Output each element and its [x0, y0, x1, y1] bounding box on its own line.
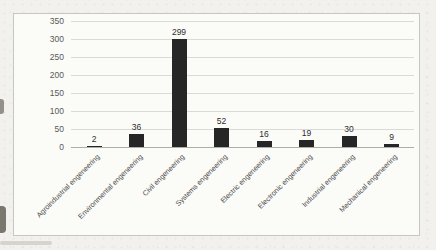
y-tick-label: 0	[30, 142, 64, 152]
x-axis-line	[71, 147, 414, 148]
bar-6	[342, 136, 357, 147]
bar-3	[214, 128, 229, 147]
bar-4	[257, 141, 272, 147]
y-tick-label: 350	[30, 16, 64, 26]
bar-value-label: 30	[327, 124, 371, 134]
gridline	[71, 21, 414, 22]
bar-5	[299, 140, 314, 147]
gridline	[71, 93, 414, 94]
y-tick-label: 250	[30, 52, 64, 62]
bar-value-label: 2	[72, 134, 116, 144]
plot-area: 0501001502002503003502Agroindustrial eng…	[14, 14, 419, 235]
scanned-page: 0501001502002503003502Agroindustrial eng…	[0, 0, 436, 250]
bar-value-label: 52	[200, 116, 244, 126]
gridline	[71, 111, 414, 112]
bar-chart: 0501001502002503003502Agroindustrial eng…	[13, 13, 420, 236]
bar-value-label: 16	[242, 129, 286, 139]
bar-0	[87, 146, 102, 147]
bar-1	[129, 134, 144, 147]
y-tick-label: 50	[30, 124, 64, 134]
scan-streak	[0, 241, 52, 245]
bar-value-label: 9	[370, 132, 414, 142]
gridline	[71, 57, 414, 58]
bar-7	[384, 144, 399, 147]
gridline	[71, 75, 414, 76]
gridline	[71, 39, 414, 40]
scan-smudge	[0, 206, 6, 233]
y-tick-label: 150	[30, 88, 64, 98]
y-tick-label: 200	[30, 70, 64, 80]
x-category-label: Civil engeneering	[142, 153, 187, 198]
bar-value-label: 299	[157, 27, 201, 37]
bar-value-label: 19	[285, 128, 329, 138]
y-tick-label: 300	[30, 34, 64, 44]
bar-2	[172, 39, 187, 147]
scan-smudge	[0, 99, 4, 114]
y-tick-label: 100	[30, 106, 64, 116]
bar-value-label: 36	[115, 122, 159, 132]
